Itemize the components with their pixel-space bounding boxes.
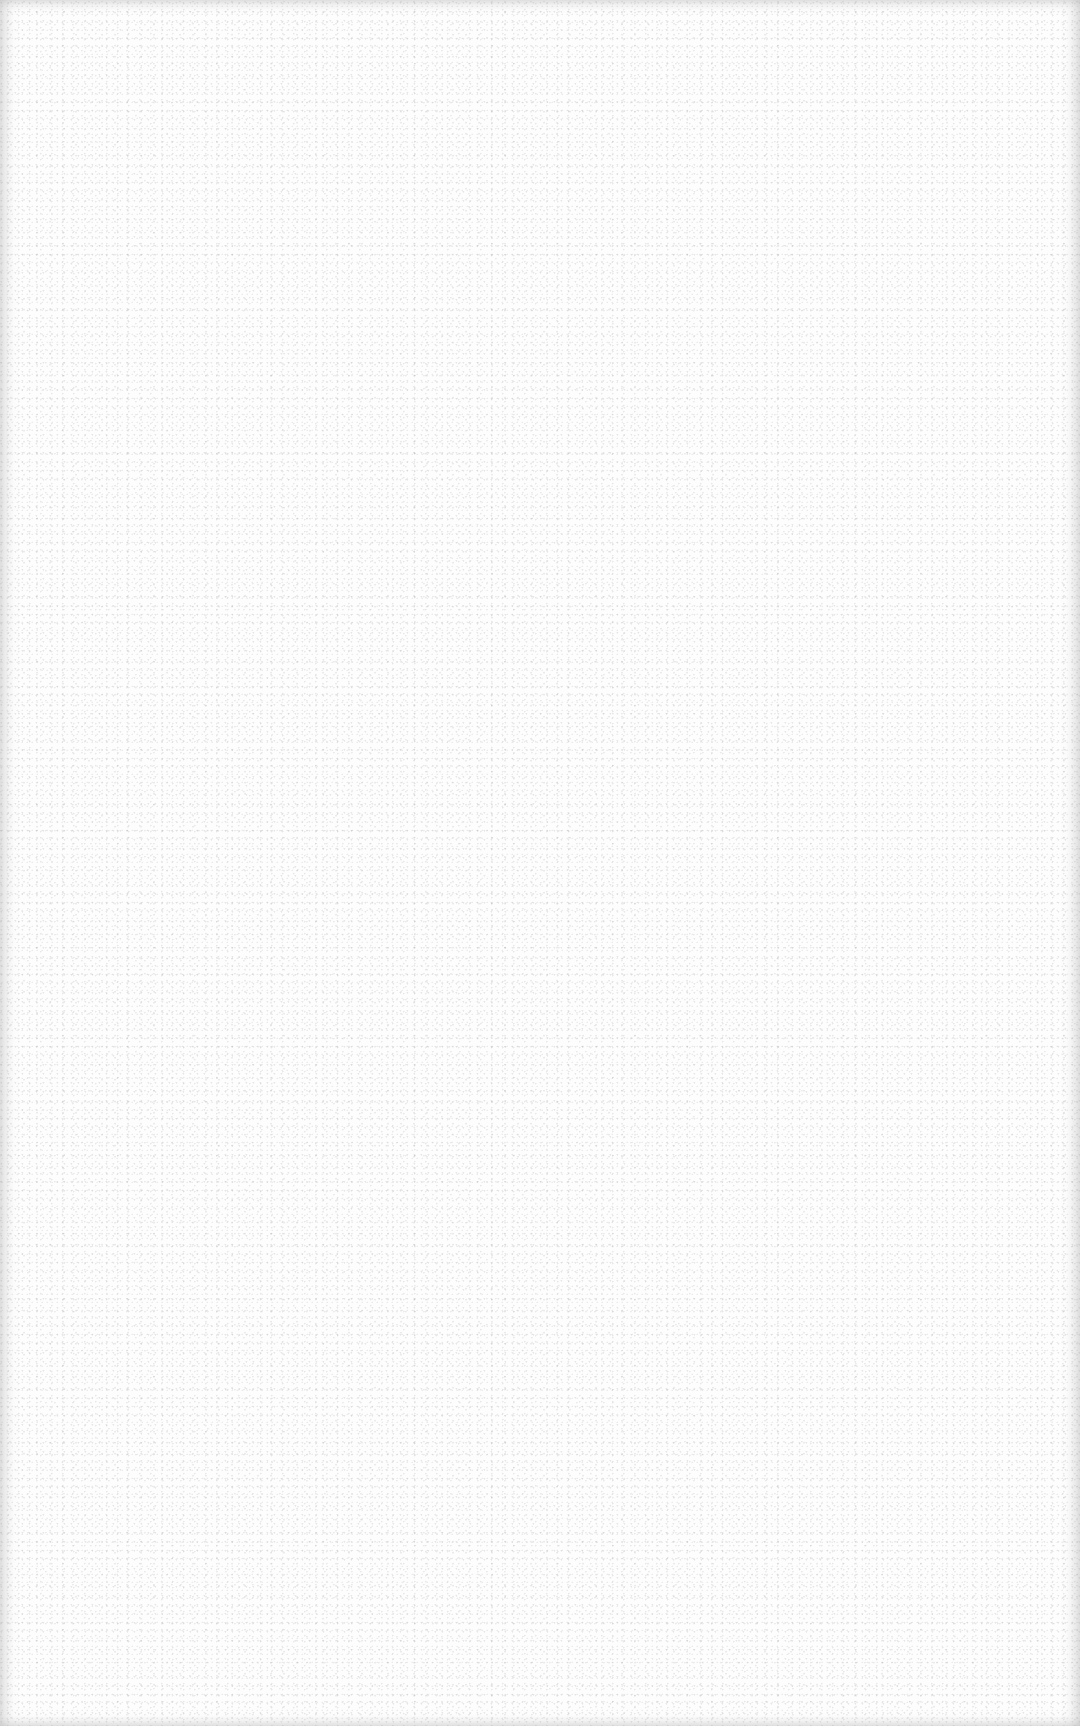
blank-page (0, 0, 1080, 1726)
scan-edge-shadow (0, 0, 1080, 1726)
paper-texture (0, 0, 1080, 1726)
